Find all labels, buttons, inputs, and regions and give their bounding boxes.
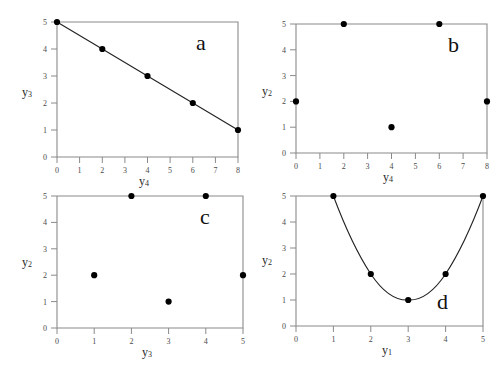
y-tick-label: 2 bbox=[43, 99, 47, 108]
x-tick-label: 4 bbox=[146, 166, 150, 175]
x-axis-label: y3 bbox=[142, 346, 152, 359]
data-series-markers bbox=[54, 19, 241, 133]
data-series-line bbox=[333, 196, 483, 300]
x-tick-label: 5 bbox=[413, 162, 417, 171]
panel-a-plot: 0 1 2 3 4 5 0 1 2 3 bbox=[0, 0, 251, 188]
y-tick-label: 0 bbox=[43, 324, 47, 333]
y-tick-label: 1 bbox=[43, 126, 47, 135]
x-tick-label: 7 bbox=[461, 162, 465, 171]
x-tick-label: 8 bbox=[236, 166, 240, 175]
plot-frame bbox=[296, 196, 483, 326]
x-tick-label: 5 bbox=[241, 337, 245, 346]
x-tick-label: 0 bbox=[294, 162, 298, 171]
y-tick-label: 0 bbox=[43, 153, 47, 162]
data-series-markers bbox=[293, 21, 490, 130]
data-series-markers bbox=[330, 193, 486, 303]
panel-c: 0 1 2 3 4 5 0 1 2 3 4 5 bbox=[0, 188, 251, 376]
x-tick-label: 1 bbox=[92, 337, 96, 346]
y-tick-label: 1 bbox=[282, 123, 286, 132]
x-tick-label: 4 bbox=[444, 335, 448, 344]
panel-a: 0 1 2 3 4 5 0 1 2 3 bbox=[0, 0, 251, 188]
panel-letter: a bbox=[196, 32, 206, 54]
x-tick-label: 1 bbox=[78, 166, 82, 175]
x-axis-label: y4 bbox=[139, 175, 149, 188]
x-tick-label: 7 bbox=[213, 166, 217, 175]
y-tick-label: 5 bbox=[282, 20, 286, 29]
y-tick-label: 2 bbox=[282, 97, 286, 106]
y-axis-ticks: 0 1 2 3 4 5 bbox=[43, 192, 57, 333]
y-tick-label: 4 bbox=[282, 46, 286, 55]
x-tick-label: 6 bbox=[437, 162, 441, 171]
y-axis-ticks: 0 1 2 3 4 5 bbox=[282, 192, 296, 331]
y-tick-label: 4 bbox=[43, 45, 47, 54]
x-tick-label: 5 bbox=[168, 166, 172, 175]
x-tick-label: 0 bbox=[55, 166, 59, 175]
x-tick-label: 1 bbox=[318, 162, 322, 171]
panel-d: 0 1 2 3 4 5 0 1 2 3 4 5 bbox=[252, 188, 503, 376]
y-tick-label: 1 bbox=[282, 296, 286, 305]
y-tick-label: 0 bbox=[282, 322, 286, 331]
y-tick-label: 5 bbox=[43, 18, 47, 27]
x-tick-label: 2 bbox=[369, 335, 373, 344]
y-tick-label: 3 bbox=[282, 72, 286, 81]
y-tick-label: 4 bbox=[282, 218, 286, 227]
x-tick-label: 4 bbox=[390, 162, 394, 171]
y-tick-label: 4 bbox=[43, 218, 47, 227]
x-axis-label: y1 bbox=[382, 344, 392, 357]
panel-letter: b bbox=[448, 34, 459, 56]
panel-letter: d bbox=[437, 291, 448, 313]
figure-canvas: 0 1 2 3 4 5 0 1 2 3 bbox=[0, 0, 503, 376]
x-axis-ticks: 0 1 2 3 4 5 6 7 8 bbox=[294, 153, 489, 171]
x-tick-label: 3 bbox=[366, 162, 370, 171]
x-tick-label: 3 bbox=[167, 337, 171, 346]
y-tick-label: 3 bbox=[43, 72, 47, 81]
x-axis-label: y4 bbox=[383, 171, 393, 184]
plot-frame bbox=[57, 22, 238, 157]
y-tick-label: 2 bbox=[282, 270, 286, 279]
y-axis-label: y2 bbox=[22, 256, 32, 269]
x-axis-ticks: 0 1 2 3 4 5 6 7 8 bbox=[55, 157, 240, 175]
x-tick-label: 0 bbox=[294, 335, 298, 344]
x-tick-label: 5 bbox=[481, 335, 485, 344]
panel-letter: c bbox=[200, 206, 210, 228]
x-tick-label: 1 bbox=[331, 335, 335, 344]
plot-frame bbox=[57, 196, 243, 328]
y-tick-label: 5 bbox=[43, 192, 47, 201]
y-tick-label: 1 bbox=[43, 298, 47, 307]
y-tick-label: 5 bbox=[282, 192, 286, 201]
x-tick-label: 2 bbox=[342, 162, 346, 171]
y-axis-ticks: 0 1 2 3 4 5 bbox=[43, 18, 57, 162]
x-tick-label: 0 bbox=[55, 337, 59, 346]
y-tick-label: 2 bbox=[43, 271, 47, 280]
x-axis-ticks: 0 1 2 3 4 5 bbox=[55, 328, 245, 346]
y-axis-label: y2 bbox=[262, 254, 272, 267]
y-axis-label: y2 bbox=[262, 85, 272, 98]
panel-d-plot: 0 1 2 3 4 5 0 1 2 3 4 5 bbox=[252, 188, 503, 376]
x-tick-label: 2 bbox=[129, 337, 133, 346]
x-tick-label: 4 bbox=[204, 337, 208, 346]
y-tick-label: 3 bbox=[282, 244, 286, 253]
y-tick-label: 3 bbox=[43, 245, 47, 254]
x-tick-label: 8 bbox=[485, 162, 489, 171]
y-axis-label: y3 bbox=[22, 86, 32, 99]
y-axis-ticks: 0 1 2 3 4 5 bbox=[282, 20, 296, 158]
x-tick-label: 3 bbox=[406, 335, 410, 344]
x-tick-label: 3 bbox=[123, 166, 127, 175]
x-axis-ticks: 0 1 2 3 4 5 bbox=[294, 326, 485, 344]
x-tick-label: 2 bbox=[100, 166, 104, 175]
panel-b: 0 1 2 3 4 5 0 1 2 3 4 bbox=[252, 0, 503, 188]
panel-b-plot: 0 1 2 3 4 5 0 1 2 3 4 bbox=[252, 0, 503, 188]
panel-c-plot: 0 1 2 3 4 5 0 1 2 3 4 5 bbox=[0, 188, 251, 376]
data-series-markers bbox=[91, 193, 246, 305]
x-tick-label: 6 bbox=[191, 166, 195, 175]
y-tick-label: 0 bbox=[282, 149, 286, 158]
